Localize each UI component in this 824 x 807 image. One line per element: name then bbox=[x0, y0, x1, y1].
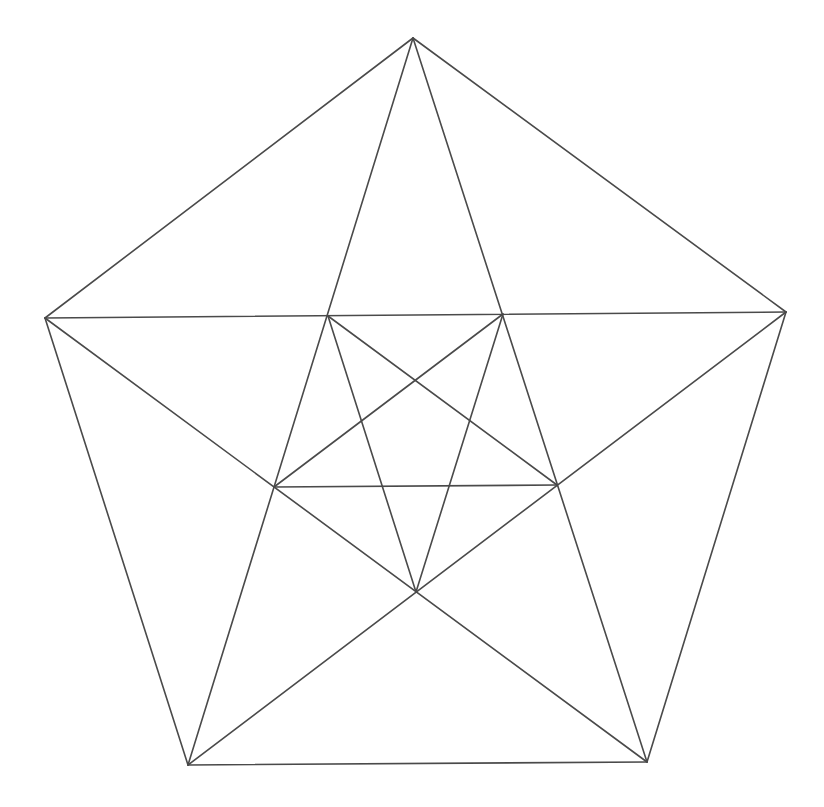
outer-edge-ea bbox=[45, 38, 413, 318]
diagonal-a-d bbox=[188, 38, 413, 765]
pentagon-diagram bbox=[0, 0, 824, 807]
diagonal-e-b bbox=[45, 312, 786, 318]
outer-edge-de bbox=[45, 318, 188, 765]
inner-p1-p4 bbox=[328, 316, 416, 592]
outer-edge-bc bbox=[647, 312, 786, 762]
diagonal-b-d bbox=[188, 312, 786, 765]
outer-edge-ab bbox=[413, 38, 786, 312]
diagonal-e-c bbox=[45, 318, 647, 762]
diagonal-a-c bbox=[413, 38, 647, 762]
inner-p1-p3 bbox=[328, 316, 557, 485]
inner-p2-p5 bbox=[274, 314, 503, 487]
inner-p2-p4 bbox=[416, 314, 503, 592]
inner-p5-p3 bbox=[274, 485, 557, 487]
outer-edge-cd bbox=[188, 762, 647, 765]
